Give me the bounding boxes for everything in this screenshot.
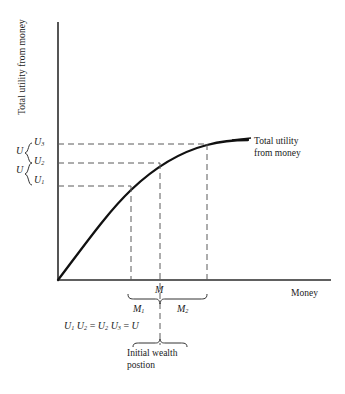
utility-of-money-figure: Total utility from money Money Total uti… bbox=[0, 0, 345, 394]
x-label-m1-sub: 1 bbox=[141, 307, 144, 314]
brace-upper-label: U bbox=[16, 145, 23, 156]
eq-op2: = bbox=[123, 320, 129, 331]
utility-equation: U1 U2 = U2 U3 = U bbox=[64, 320, 139, 331]
initial-wealth-annotation: Initial wealth postion bbox=[127, 348, 177, 371]
curve-label: Total utility from money bbox=[254, 136, 301, 159]
y-label-u2-sub: 2 bbox=[41, 159, 44, 166]
eq-u1-sub: 1 bbox=[71, 324, 74, 331]
x-label-m2-sub: 2 bbox=[185, 307, 188, 314]
y-label-u3-sub: 3 bbox=[41, 140, 44, 147]
brace-lower-label: U bbox=[16, 164, 23, 175]
initial-wealth-line2: postion bbox=[127, 360, 177, 372]
brace-upper-u bbox=[25, 143, 32, 163]
eq-u2b-sub: 2 bbox=[105, 324, 108, 331]
x-label-m: M bbox=[155, 284, 163, 295]
eq-u-base: U bbox=[132, 320, 139, 331]
x-label-m2: M2 bbox=[177, 303, 188, 314]
brace-lower-u bbox=[25, 163, 32, 185]
initial-wealth-line1: Initial wealth bbox=[127, 348, 177, 360]
curve-label-line2: from money bbox=[254, 148, 301, 160]
eq-u2a-sub: 2 bbox=[84, 324, 87, 331]
eq-op1: = bbox=[90, 320, 96, 331]
eq-u3-sub: 3 bbox=[118, 324, 121, 331]
y-label-u1: U1 bbox=[34, 174, 44, 185]
x-axis-title: Money bbox=[291, 288, 318, 298]
eq-u2a-base: U bbox=[77, 320, 84, 331]
eq-u3-base: U bbox=[111, 320, 118, 331]
x-label-m1: M1 bbox=[133, 303, 144, 314]
figure-canvas bbox=[0, 0, 345, 394]
eq-u2b-base: U bbox=[98, 320, 105, 331]
y-label-u1-sub: 1 bbox=[41, 178, 44, 185]
y-axis-title: Total utility from money bbox=[17, 12, 27, 122]
utility-curve bbox=[58, 140, 248, 280]
y-label-u3: U3 bbox=[34, 136, 44, 147]
y-label-u2: U2 bbox=[34, 155, 44, 166]
curve-label-line1: Total utility bbox=[254, 136, 301, 148]
